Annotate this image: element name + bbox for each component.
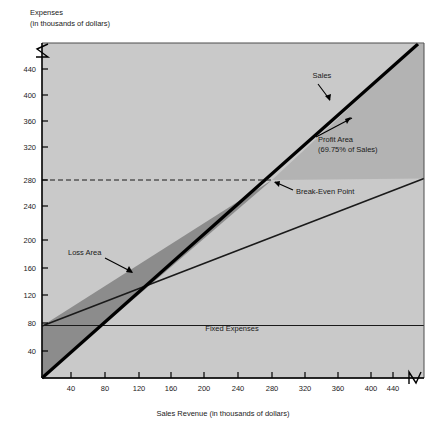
sales-label: Sales (313, 71, 332, 80)
y-tick-label: 360 (23, 117, 36, 126)
y-tick-label: 400 (23, 91, 36, 100)
x-tick-label: 400 (365, 384, 378, 393)
x-tick-label: 40 (67, 384, 75, 393)
break-even-chart: Expenses(in thousands of dollars) Sales … (0, 0, 446, 447)
x-tick-label: 440 (387, 384, 400, 393)
x-tick-label: 360 (332, 384, 345, 393)
x-tick-label: 120 (133, 384, 146, 393)
y-tick-label: 280 (23, 176, 36, 185)
x-tick-label: 160 (165, 384, 178, 393)
fixed-expenses-label: Fixed Expenses (205, 324, 259, 333)
y-tick-label: 80 (28, 319, 36, 328)
y-tick-label: 320 (23, 143, 36, 152)
break-even-label: Break-Even Point (296, 187, 355, 196)
x-tick-label: 200 (198, 384, 211, 393)
profit-area-label-line2: (69.75% of Sales) (318, 145, 378, 154)
y-tick-label: 240 (23, 202, 36, 211)
y-tick-label: 200 (23, 236, 36, 245)
x-tick-label: 240 (232, 384, 245, 393)
profit-area-label-line1: Profit Area (318, 135, 354, 144)
y-tick-label: 160 (23, 264, 36, 273)
x-tick-label: 320 (299, 384, 312, 393)
chart-canvas: 440 400 360 320 280 240 200 160 120 80 4… (0, 0, 446, 447)
loss-area-label: Loss Area (68, 248, 102, 257)
x-tick-label: 280 (266, 384, 279, 393)
x-tick-label: 80 (101, 384, 109, 393)
y-tick-label: 40 (28, 347, 36, 356)
y-tick-label: 440 (23, 65, 36, 74)
y-tick-label: 120 (23, 291, 36, 300)
